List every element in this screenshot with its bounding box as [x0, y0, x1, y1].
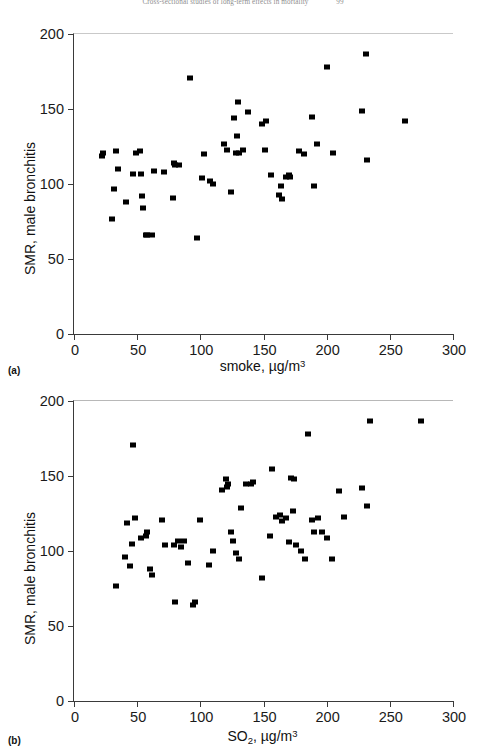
data-point [225, 481, 231, 486]
x-axis-tick: 200 [327, 334, 328, 340]
data-point [147, 567, 153, 572]
data-point [283, 516, 289, 521]
data-point [359, 108, 365, 113]
x-axis-tick: 100 [200, 334, 201, 340]
data-point [130, 442, 136, 447]
data-point [139, 194, 145, 199]
data-point [172, 600, 178, 605]
data-point [287, 174, 293, 179]
data-point [176, 162, 182, 167]
data-point [111, 186, 117, 191]
data-point [230, 538, 236, 543]
data-point [240, 147, 246, 152]
data-point [341, 514, 347, 519]
data-point [159, 517, 165, 522]
y-axis-tick-label: 100 [40, 176, 64, 192]
x-axis-title-a-text: smoke, µg/m [220, 358, 300, 374]
data-point [324, 535, 330, 540]
data-point [311, 529, 317, 534]
data-point [170, 195, 176, 200]
data-point [161, 170, 167, 175]
data-point [336, 489, 342, 494]
data-point [301, 152, 307, 157]
data-point [113, 583, 119, 588]
data-point [185, 561, 191, 566]
data-point [402, 119, 408, 124]
data-point [129, 541, 135, 546]
x-axis-tick-label: 150 [252, 342, 276, 358]
x-axis-tick-label: 50 [130, 342, 146, 358]
data-point [171, 543, 177, 548]
data-point [311, 183, 317, 188]
data-point [359, 486, 365, 491]
data-point [259, 576, 265, 581]
data-point [234, 134, 240, 139]
data-point [210, 549, 216, 554]
x-axis-tick-label: 50 [130, 709, 146, 725]
data-point [277, 513, 283, 518]
data-point [279, 197, 285, 202]
x-axis-title-b-text: SO [227, 728, 247, 744]
data-point [162, 543, 168, 548]
data-point [236, 556, 242, 561]
data-point [363, 51, 369, 56]
x-axis-tick: 50 [137, 334, 138, 340]
data-point [367, 418, 373, 423]
data-point [291, 477, 297, 482]
x-axis-tick: 250 [390, 334, 391, 340]
data-point [138, 171, 144, 176]
data-point [137, 149, 143, 154]
data-point [235, 99, 241, 104]
x-axis-tick-label: 300 [442, 342, 466, 358]
data-point [194, 236, 200, 241]
data-point [151, 168, 157, 173]
data-point [364, 158, 370, 163]
data-point [315, 516, 321, 521]
data-point [305, 432, 311, 437]
data-point [262, 147, 268, 152]
figure-panel-a: 050100150200050100150200250300 smoke, µg… [0, 20, 486, 375]
data-point [228, 189, 234, 194]
y-axis-tick-label: 50 [48, 251, 64, 267]
running-head-title: Cross-sectional studies of long-term eff… [142, 0, 308, 6]
x-axis-title-b: SO2, µg/m3 [73, 728, 452, 746]
x-axis-title-b-exponent: 3 [292, 728, 297, 739]
x-axis-tick-label: 0 [71, 709, 79, 725]
x-axis-tick-label: 150 [252, 709, 276, 725]
x-axis-tick-label: 100 [189, 709, 213, 725]
data-point [144, 529, 150, 534]
y-axis-tick-label: 150 [40, 101, 64, 117]
x-axis-tick: 0 [74, 701, 75, 707]
running-head: Cross-sectional studies of long-term eff… [0, 0, 486, 10]
data-point [309, 517, 315, 522]
y-axis-tick: 150 [68, 109, 74, 110]
y-axis-title-b: SMR, male bronchitis [22, 512, 38, 645]
data-point [140, 206, 146, 211]
data-point [314, 141, 320, 146]
scatter-plot-b: 050100150200050100150200250300 [73, 400, 453, 702]
data-point [132, 516, 138, 521]
data-point [109, 216, 115, 221]
data-point [100, 150, 106, 155]
x-axis-tick: 100 [200, 701, 201, 707]
y-axis-tick-label: 100 [40, 543, 64, 559]
x-axis-tick-label: 300 [442, 709, 466, 725]
data-point [228, 529, 234, 534]
x-axis-tick: 150 [264, 334, 265, 340]
data-point [199, 176, 205, 181]
data-point [330, 150, 336, 155]
data-point [127, 564, 133, 569]
x-axis-tick: 200 [327, 701, 328, 707]
data-point [263, 119, 269, 124]
data-point [201, 152, 207, 157]
y-axis-tick: 100 [68, 551, 74, 552]
data-point [123, 200, 129, 205]
y-axis-tick-label: 50 [48, 618, 64, 634]
data-point [175, 538, 181, 543]
data-point [115, 167, 121, 172]
y-axis-tick: 50 [68, 259, 74, 260]
data-point [418, 418, 424, 423]
running-head-page-number: 99 [336, 0, 343, 6]
figure-panel-b: 050100150200050100150200250300 SO2, µg/m… [0, 387, 486, 756]
data-point [149, 573, 155, 578]
